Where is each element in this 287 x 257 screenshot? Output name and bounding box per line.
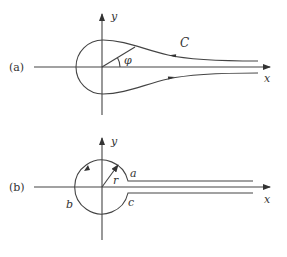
panel-a-label: (a): [9, 61, 24, 74]
x-axis-label: x: [264, 72, 271, 85]
point-c-label: c: [128, 196, 134, 209]
phi-label: φ: [124, 54, 132, 67]
y-axis-label: y: [110, 10, 118, 23]
panel-a: (a) y x φ C: [9, 10, 271, 115]
point-b-label: b: [66, 198, 73, 211]
r-label: r: [113, 174, 119, 187]
c-label: C: [180, 36, 189, 50]
y-axis-label: y: [110, 135, 118, 148]
panel-b: (b) y x r a b c: [9, 135, 271, 240]
panel-b-label: (b): [9, 181, 25, 194]
point-a-label: a: [130, 167, 137, 180]
figure: (a) y x φ C (b) y x r a b c: [0, 0, 287, 257]
angle-arc: [118, 58, 121, 67]
x-axis-label: x: [264, 193, 271, 206]
